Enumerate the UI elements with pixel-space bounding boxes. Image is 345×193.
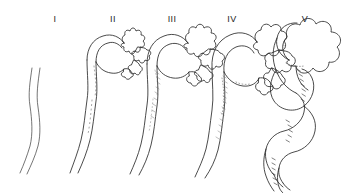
stage-label-i-text: I <box>54 14 57 24</box>
stage-iv-drawing <box>195 24 295 178</box>
stage-iii-drawing <box>130 24 224 175</box>
stage-label-iii: III <box>160 14 184 24</box>
stage-label-v-text: V <box>302 14 308 24</box>
stage-v-drawing <box>264 18 341 193</box>
stage-label-ii-text: II <box>110 14 116 24</box>
figure-container: I II III IV V <box>0 0 345 193</box>
stage-label-ii: II <box>101 14 125 24</box>
stage-i-drawing <box>20 68 40 174</box>
anatomical-stages-drawing <box>0 0 345 193</box>
stage-label-iii-text: III <box>168 14 177 24</box>
stage-label-iv: IV <box>220 14 244 24</box>
stage-label-i: I <box>43 14 67 24</box>
stage-label-v: V <box>293 14 317 24</box>
stage-label-iv-text: IV <box>227 14 236 24</box>
